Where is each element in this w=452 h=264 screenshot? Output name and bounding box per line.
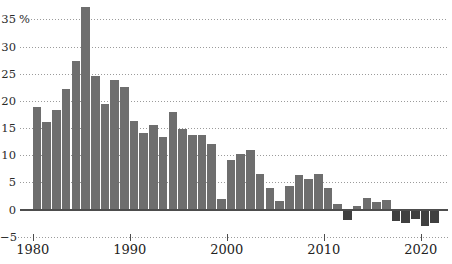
y-axis-percent-sign: % — [19, 14, 30, 25]
y-axis-label-5: 5 — [0, 177, 16, 188]
bar-2014 — [363, 198, 372, 210]
x-tick-2010 — [324, 234, 325, 241]
y-axis-label-15: 15 — [0, 123, 16, 134]
x-axis-label-1980: 1980 — [11, 243, 55, 256]
bar-1992 — [149, 125, 158, 209]
y-axis-label-30: 30 — [0, 42, 16, 53]
y-axis-label-25: 25 — [0, 69, 16, 80]
bar-1985 — [81, 7, 90, 210]
bar-2004 — [266, 188, 275, 209]
x-axis-label-1990: 1990 — [108, 243, 152, 256]
bar-1995 — [178, 129, 187, 210]
bar-1988 — [110, 80, 119, 210]
bar-1996 — [188, 135, 197, 210]
bar-2001 — [236, 154, 245, 210]
bar-2017 — [392, 211, 401, 222]
bar-2015 — [372, 202, 381, 210]
bar-2002 — [246, 150, 255, 209]
bar-1982 — [52, 110, 61, 210]
bar-1993 — [159, 137, 168, 209]
bar-1984 — [72, 61, 81, 209]
x-tick-1990 — [130, 234, 131, 241]
x-tick-2000 — [227, 234, 228, 241]
bar-1999 — [217, 199, 226, 210]
gridline-35 — [31, 19, 448, 20]
bar-1991 — [139, 133, 148, 210]
bar-2021 — [430, 211, 439, 223]
bar-1981 — [42, 122, 51, 210]
bar-2010 — [324, 188, 333, 209]
bar-1989 — [120, 87, 129, 210]
bar-2011 — [333, 204, 342, 210]
bar-1986 — [91, 76, 100, 210]
x-tick-1980 — [33, 234, 34, 241]
bar-2006 — [285, 186, 294, 209]
bar-1990 — [130, 121, 139, 210]
bar-2012 — [343, 211, 352, 220]
bar-1983 — [62, 89, 71, 209]
bar-chart: 35%302520151050−5 19801990200020102020 — [0, 0, 452, 264]
bar-2018 — [401, 211, 410, 223]
bar-1997 — [198, 135, 207, 210]
bar-2007 — [295, 175, 304, 210]
y-axis-label-35: 35 — [0, 14, 16, 25]
x-axis-label-2020: 2020 — [399, 243, 443, 256]
y-axis-label-20: 20 — [0, 96, 16, 107]
x-axis-label-2000: 2000 — [205, 243, 249, 256]
bar-2013 — [353, 206, 362, 210]
y-axis-label-0: 0 — [0, 205, 16, 216]
bar-2020 — [421, 211, 430, 226]
gridline--5 — [18, 237, 448, 238]
bar-2003 — [256, 174, 265, 209]
x-tick-2020 — [421, 234, 422, 241]
x-axis-label-2010: 2010 — [302, 243, 346, 256]
bar-2016 — [382, 200, 391, 210]
bar-1980 — [33, 107, 42, 209]
bar-2009 — [314, 174, 323, 209]
y-axis-label-10: 10 — [0, 150, 16, 161]
bar-1998 — [207, 144, 216, 209]
bar-1994 — [169, 112, 178, 209]
bar-2008 — [304, 179, 313, 210]
bar-2019 — [411, 211, 420, 219]
bar-1987 — [101, 104, 110, 209]
bar-2005 — [275, 201, 284, 209]
y-axis-label--5: −5 — [0, 232, 16, 243]
bar-2000 — [227, 160, 236, 209]
